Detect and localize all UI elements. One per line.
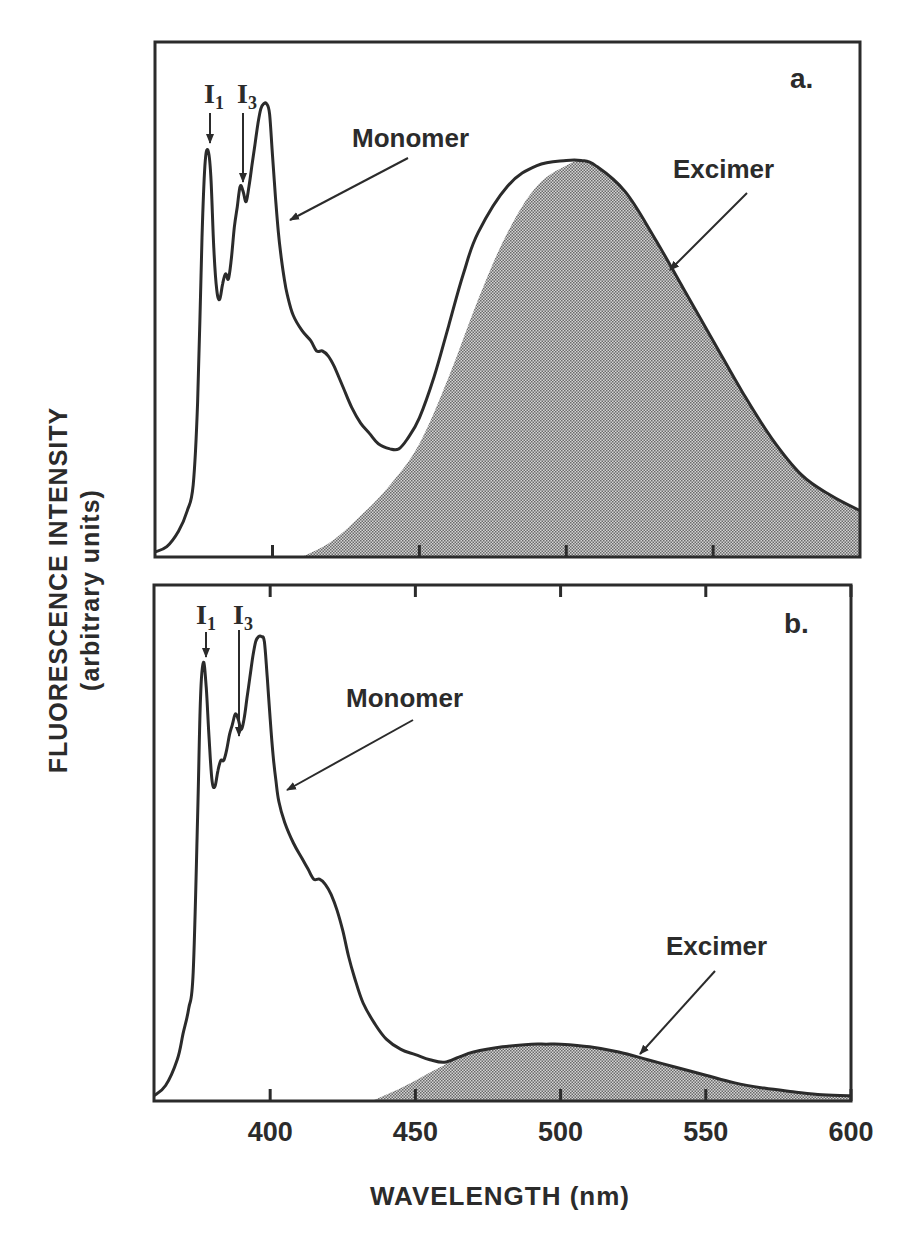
- x-tick-label: 450: [393, 1117, 438, 1147]
- x-tick-label: 500: [538, 1117, 583, 1147]
- monomer-arrow-a: [290, 158, 408, 220]
- monomer-label-a: Monomer: [352, 123, 469, 153]
- plot-frame-b: [154, 585, 851, 1101]
- i1-label-b: I1: [196, 599, 216, 634]
- x-tick-labels: 400450500550600: [248, 1117, 874, 1147]
- excimer-shaded-area-a: [302, 160, 860, 557]
- excimer-shaded-area-b: [372, 1044, 851, 1101]
- x-tick-label: 600: [828, 1117, 873, 1147]
- panel-label-b: b.: [784, 608, 809, 639]
- fluorescence-figure: I1 I3 Monomer Excimer a. I1 I3 Monomer E…: [0, 0, 922, 1249]
- y-axis-label: FLUORESCENCE INTENSITY (arbitrary units): [44, 407, 104, 773]
- y-axis-label-line2: (arbitrary units): [76, 489, 104, 691]
- panel-a: I1 I3 Monomer Excimer a.: [155, 42, 860, 557]
- i3-label-b: I3: [233, 599, 253, 634]
- i1-label-a: I1: [204, 78, 224, 113]
- excimer-label-a: Excimer: [673, 154, 774, 184]
- x-tick-label: 400: [248, 1117, 293, 1147]
- excimer-arrow-b: [640, 971, 715, 1054]
- spectrum-line-b: [154, 636, 851, 1096]
- excimer-arrow-a: [670, 193, 747, 270]
- x-tick-label: 550: [683, 1117, 728, 1147]
- panel-b: I1 I3 Monomer Excimer b.: [154, 585, 851, 1101]
- panel-label-a: a.: [790, 63, 813, 94]
- monomer-label-b: Monomer: [346, 683, 463, 713]
- x-axis-label: WAVELENGTH (nm): [370, 1181, 630, 1211]
- i3-label-a: I3: [237, 78, 257, 113]
- monomer-arrow-b: [287, 720, 413, 790]
- x-ticks-b: [270, 585, 851, 1101]
- y-axis-label-line1: FLUORESCENCE INTENSITY: [44, 407, 72, 773]
- excimer-label-b: Excimer: [666, 931, 767, 961]
